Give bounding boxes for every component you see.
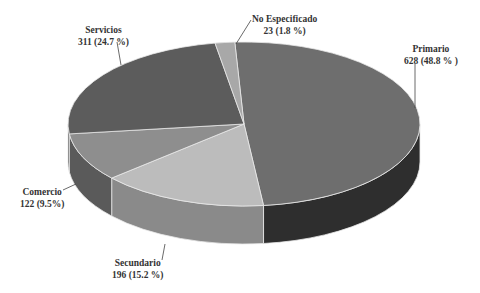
label-no-especificado: No Especificado 23 (1.8 %): [252, 13, 317, 37]
label-servicios-name: Servicios: [78, 24, 129, 36]
label-primario: Primario 628 (48.8 % ): [404, 43, 458, 67]
label-primario-value: 628 (48.8 % ): [404, 55, 458, 67]
leader-no-especificado: [236, 20, 251, 44]
label-primario-name: Primario: [404, 43, 458, 55]
label-no-especificado-name: No Especificado: [252, 13, 317, 25]
leader-comercio: [63, 184, 76, 190]
label-comercio: Comercio 122 (9.5%): [20, 186, 64, 210]
pie-top: [68, 42, 420, 206]
label-servicios: Servicios 311 (24.7 %): [78, 24, 129, 48]
label-no-especificado-value: 23 (1.8 %): [252, 25, 317, 37]
label-comercio-name: Comercio: [20, 186, 64, 198]
label-secundario-name: Secundario: [112, 257, 163, 269]
slice-servicios: [68, 43, 244, 134]
label-comercio-value: 122 (9.5%): [20, 198, 64, 210]
label-secundario-value: 196 (15.2 %): [112, 269, 163, 281]
label-servicios-value: 311 (24.7 %): [78, 36, 129, 48]
label-secundario: Secundario 196 (15.2 %): [112, 257, 163, 281]
